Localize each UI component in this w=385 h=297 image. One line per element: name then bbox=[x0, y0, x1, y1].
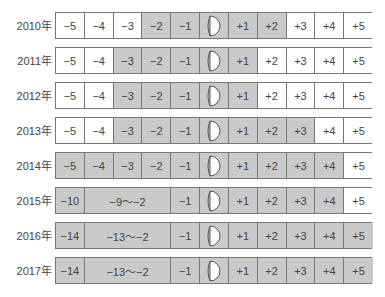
offset-cell: −3 bbox=[114, 153, 143, 178]
offset-cell: −2 bbox=[142, 153, 171, 178]
offset-cell: +2 bbox=[258, 13, 287, 38]
offset-cell: −4 bbox=[85, 118, 114, 143]
moon-half-icon bbox=[200, 188, 229, 213]
offset-cell: −1 bbox=[171, 48, 200, 73]
offset-cell: +5 bbox=[344, 223, 373, 248]
offset-cell: +2 bbox=[258, 118, 287, 143]
moon-half-icon bbox=[200, 118, 229, 143]
year-label: 2011年 bbox=[0, 47, 52, 75]
offset-cell: +1 bbox=[229, 13, 258, 38]
year-row: 2017年−14−13〜−2−1+1+2+3+4+5 bbox=[0, 257, 385, 285]
offset-cell: +2 bbox=[258, 188, 287, 213]
offset-cell: −5 bbox=[56, 83, 85, 108]
offset-cell: +1 bbox=[229, 188, 258, 213]
year-label: 2013年 bbox=[0, 117, 52, 145]
offset-cell: +1 bbox=[229, 83, 258, 108]
offset-cell: +5 bbox=[344, 118, 373, 143]
offset-cell: −13〜−2 bbox=[85, 258, 171, 283]
offset-cell: −4 bbox=[85, 48, 114, 73]
offset-cell: +4 bbox=[315, 118, 344, 143]
year-cells: −5−4−3−2−1+1+2+3+4+5 bbox=[55, 117, 372, 144]
year-cells: −10−9〜−2−1+1+2+3+4+5 bbox=[55, 187, 372, 214]
offset-cell: −10 bbox=[56, 188, 85, 213]
offset-cell: +1 bbox=[229, 223, 258, 248]
offset-cell: +3 bbox=[287, 223, 316, 248]
year-cells: −5−4−3−2−1+1+2+3+4+5 bbox=[55, 82, 372, 109]
offset-cell: +5 bbox=[344, 188, 373, 213]
offset-cell: +5 bbox=[344, 258, 373, 283]
offset-cell: −2 bbox=[142, 118, 171, 143]
offset-cell: +4 bbox=[315, 48, 344, 73]
offset-cell: +2 bbox=[258, 48, 287, 73]
offset-cell: −4 bbox=[85, 83, 114, 108]
offset-cell: +1 bbox=[229, 258, 258, 283]
offset-cell: +5 bbox=[344, 153, 373, 178]
offset-cell: +4 bbox=[315, 13, 344, 38]
year-cells: −5−4−3−2−1+1+2+3+4+5 bbox=[55, 12, 372, 39]
offset-cell: +5 bbox=[344, 48, 373, 73]
offset-cell: −1 bbox=[171, 118, 200, 143]
offset-cell: +4 bbox=[315, 83, 344, 108]
offset-cell: +1 bbox=[229, 118, 258, 143]
offset-cell: −9〜−2 bbox=[85, 188, 171, 213]
year-cells: −14−13〜−2−1+1+2+3+4+5 bbox=[55, 257, 372, 284]
offset-cell: −5 bbox=[56, 118, 85, 143]
offset-cell: −14 bbox=[56, 258, 85, 283]
year-cells: −5−4−3−2−1+1+2+3+4+5 bbox=[55, 47, 372, 74]
year-cells: −14−13〜−2−1+1+2+3+4+5 bbox=[55, 222, 372, 249]
offset-cell: −3 bbox=[114, 13, 143, 38]
offset-cell: −2 bbox=[142, 13, 171, 38]
moon-half-icon bbox=[200, 258, 229, 283]
offset-cell: +1 bbox=[229, 48, 258, 73]
offset-cell: +4 bbox=[315, 258, 344, 283]
offset-cell: +3 bbox=[287, 13, 316, 38]
year-row: 2013年−5−4−3−2−1+1+2+3+4+5 bbox=[0, 117, 385, 145]
offset-cell: −1 bbox=[171, 83, 200, 108]
offset-cell: −2 bbox=[142, 48, 171, 73]
year-row: 2010年−5−4−3−2−1+1+2+3+4+5 bbox=[0, 12, 385, 40]
year-row: 2011年−5−4−3−2−1+1+2+3+4+5 bbox=[0, 47, 385, 75]
offset-cell: +4 bbox=[315, 188, 344, 213]
offset-cell: −5 bbox=[56, 153, 85, 178]
offset-cell: −4 bbox=[85, 13, 114, 38]
year-row: 2015年−10−9〜−2−1+1+2+3+4+5 bbox=[0, 187, 385, 215]
year-label: 2014年 bbox=[0, 152, 52, 180]
moon-half-icon bbox=[200, 153, 229, 178]
offset-cell: +3 bbox=[287, 188, 316, 213]
offset-cell: −3 bbox=[114, 118, 143, 143]
moon-half-icon bbox=[200, 83, 229, 108]
offset-cell: +4 bbox=[315, 223, 344, 248]
offset-cell: +5 bbox=[344, 83, 373, 108]
offset-cell: −1 bbox=[171, 258, 200, 283]
year-label: 2017年 bbox=[0, 257, 52, 285]
offset-cell: −5 bbox=[56, 13, 85, 38]
offset-cell: −13〜−2 bbox=[85, 223, 171, 248]
offset-cell: +3 bbox=[287, 48, 316, 73]
offset-cell: −1 bbox=[171, 13, 200, 38]
offset-cell: −2 bbox=[142, 83, 171, 108]
offset-cell: +2 bbox=[258, 258, 287, 283]
offset-cell: −14 bbox=[56, 223, 85, 248]
year-cells: −5−4−3−2−1+1+2+3+4+5 bbox=[55, 152, 372, 179]
offset-cell: +4 bbox=[315, 153, 344, 178]
offset-cell: +3 bbox=[287, 83, 316, 108]
moon-half-icon bbox=[200, 223, 229, 248]
offset-cell: −1 bbox=[171, 223, 200, 248]
offset-cell: −3 bbox=[114, 83, 143, 108]
year-label: 2012年 bbox=[0, 82, 52, 110]
offset-cell: +2 bbox=[258, 223, 287, 248]
year-label: 2010年 bbox=[0, 12, 52, 40]
year-row: 2012年−5−4−3−2−1+1+2+3+4+5 bbox=[0, 82, 385, 110]
offset-cell: −1 bbox=[171, 188, 200, 213]
offset-cell: −3 bbox=[114, 48, 143, 73]
moon-half-icon bbox=[200, 13, 229, 38]
offset-cell: +3 bbox=[287, 153, 316, 178]
offset-cell: −4 bbox=[85, 153, 114, 178]
offset-cell: +5 bbox=[344, 13, 373, 38]
year-row: 2014年−5−4−3−2−1+1+2+3+4+5 bbox=[0, 152, 385, 180]
offset-cell: −1 bbox=[171, 153, 200, 178]
offset-cell: +2 bbox=[258, 153, 287, 178]
offset-cell: +2 bbox=[258, 83, 287, 108]
offset-cell: −5 bbox=[56, 48, 85, 73]
offset-cell: +1 bbox=[229, 153, 258, 178]
